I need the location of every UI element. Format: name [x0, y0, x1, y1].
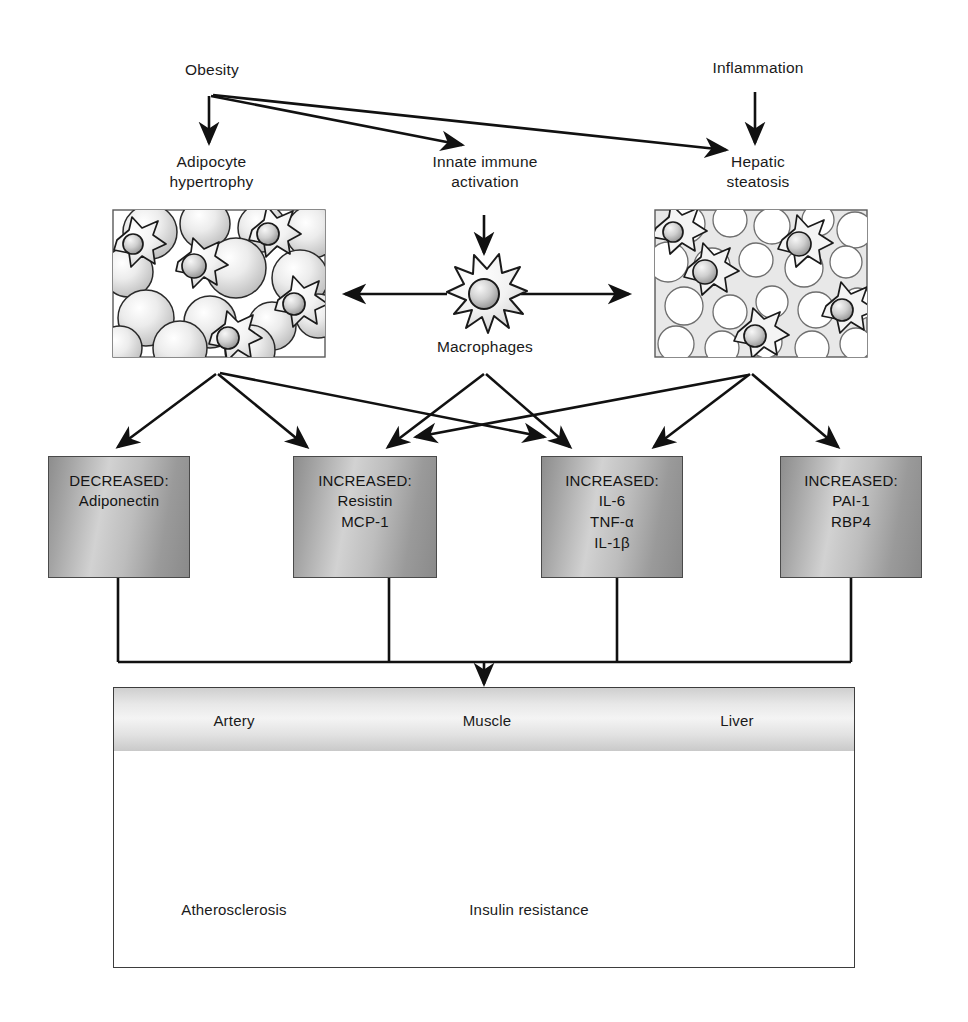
mediator-item: TNF-α: [590, 511, 634, 532]
mediator-bus-lines: [118, 578, 851, 684]
mediator-box-adiponectin[interactable]: DECREASED: Adiponectin: [48, 456, 190, 578]
adipose-tissue-micrograph: [98, 199, 340, 375]
outcome-label-atherosclerosis: Atherosclerosis: [124, 901, 344, 918]
outcome-label-insulin-resistance: Insulin resistance: [414, 901, 644, 918]
node-label-innate-immune-activation: Innate immune activation: [405, 152, 565, 192]
mediator-box-pai1-rbp4[interactable]: INCREASED: PAI-1 RBP4: [780, 456, 922, 578]
organ-label-liver: Liver: [667, 712, 807, 729]
node-label-hepatic-steatosis: Hepatic steatosis: [688, 152, 828, 192]
mediator-box-resistin-mcp1[interactable]: INCREASED: Resistin MCP-1: [293, 456, 437, 578]
outcome-panel: Artery Muscle Liver Atherosclerosis Insu…: [113, 687, 855, 968]
arrow-group-mediators: [118, 373, 838, 447]
mediator-item: Resistin: [338, 490, 393, 511]
mediator-item: PAI-1: [832, 490, 869, 511]
hepatic-steatosis-micrograph: [648, 203, 876, 365]
mediator-box-header: INCREASED:: [804, 471, 898, 490]
node-label-adipocyte-hypertrophy: Adipocyte hypertrophy: [139, 152, 284, 192]
mediator-item: MCP-1: [341, 511, 389, 532]
mediator-box-il6-tnfa-il1b[interactable]: INCREASED: IL-6 TNF-α IL-1β: [541, 456, 683, 578]
diagram-canvas: Obesity Inflammation Adipocyte hypertrop…: [0, 0, 968, 1022]
node-label-obesity: Obesity: [152, 60, 272, 80]
node-label-inflammation: Inflammation: [688, 58, 828, 78]
mediator-item: Adiponectin: [79, 490, 160, 511]
mediator-box-header: DECREASED:: [69, 471, 169, 490]
mediator-box-header: INCREASED:: [565, 471, 659, 490]
mediator-item: RBP4: [831, 511, 871, 532]
mediator-item: IL-6: [599, 490, 626, 511]
mediator-item: IL-1β: [594, 532, 629, 553]
mediator-box-header: INCREASED:: [318, 471, 412, 490]
organ-label-artery: Artery: [164, 712, 304, 729]
node-label-macrophages: Macrophages: [414, 337, 556, 357]
macrophage-cell-icon: [447, 254, 527, 333]
organ-label-muscle: Muscle: [417, 712, 557, 729]
